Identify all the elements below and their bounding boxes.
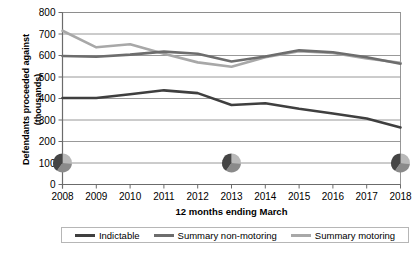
x-tick-label: 2017 [356, 191, 379, 202]
x-tick-label: 2008 [51, 191, 74, 202]
x-tick-label: 2010 [119, 191, 142, 202]
pie-marker [53, 154, 72, 173]
x-tick-label: 2016 [322, 191, 345, 202]
legend-item-summary-motoring[interactable]: Summary motoring [291, 230, 395, 241]
x-tick-label: 2012 [187, 191, 210, 202]
legend-label-indictable: Indictable [99, 230, 140, 241]
pie-marker [391, 154, 410, 173]
pie-slice-summary-motoring [401, 154, 411, 164]
x-tick-label: 2014 [254, 191, 277, 202]
legend-item-summary-non-motoring[interactable]: Summary non-motoring [154, 230, 277, 241]
figure-caption [68, 248, 408, 254]
y-tick-label: 700 [39, 29, 56, 40]
chart-figure: Defendants proceeded against (thousands)… [0, 0, 412, 254]
x-tick-label: 2018 [389, 191, 412, 202]
legend-swatch-indictable [75, 234, 95, 237]
y-tick-label: 200 [39, 136, 56, 147]
pie-marker [222, 154, 241, 173]
legend-swatch-summary-non-motoring [154, 234, 174, 237]
legend-item-indictable[interactable]: Indictable [75, 230, 140, 241]
y-tick-label: 600 [39, 50, 56, 61]
chart-legend: Indictable Summary non-motoring Summary … [61, 227, 409, 243]
x-tick-label: 2011 [153, 191, 175, 202]
legend-label-summary-motoring: Summary motoring [315, 230, 395, 241]
legend-swatch-summary-motoring [291, 234, 311, 237]
y-tick-label: 800 [39, 7, 56, 18]
x-axis-title: 12 months ending March [62, 206, 401, 217]
x-tick-label: 2015 [288, 191, 311, 202]
legend-label-summary-non-motoring: Summary non-motoring [178, 230, 277, 241]
y-tick-label: 300 [39, 115, 56, 126]
y-tick-label: 500 [39, 72, 56, 83]
y-tick-label: 400 [39, 93, 56, 104]
x-tick-label: 2009 [85, 191, 108, 202]
y-tick-label: 0 [50, 179, 56, 190]
x-tick-label: 2013 [220, 191, 243, 202]
